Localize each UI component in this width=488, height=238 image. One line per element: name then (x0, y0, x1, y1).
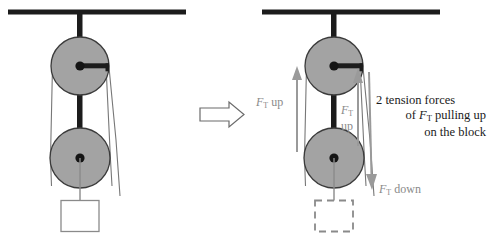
label-ft-up-left: FT up (256, 96, 283, 112)
upper-axle-arm-drop (360, 63, 364, 71)
support-ceiling (8, 10, 186, 15)
tension-note-symbol: F (419, 108, 427, 122)
label-ft-down: FT down (379, 183, 421, 199)
label-ft-up-left-suffix: up (268, 95, 283, 109)
label-ft-down-suffix: down (391, 182, 421, 196)
upper-pulley-hub (329, 61, 338, 70)
hanging-block (315, 201, 353, 232)
force-arrow-ft-up-left (292, 66, 302, 152)
tension-note: 2 tension forces of FT pulling up on the… (374, 93, 486, 140)
hanging-block (61, 201, 99, 232)
label-ft-up-middle-subscript: T (348, 109, 353, 118)
tension-note-line-2-pre: of (405, 108, 419, 122)
rope-right-strand-outer (109, 62, 121, 196)
pulley-tension-diagram: FT up FTup FT down 2 tension forces of F… (0, 0, 488, 238)
tension-note-line-1: 2 tension forces (374, 93, 486, 108)
label-ft-up-middle: FTup (336, 104, 358, 132)
tension-note-line-2-post: pulling up (432, 108, 486, 122)
upper-pulley-hub (75, 61, 84, 70)
label-ft-up-middle-suffix: up (341, 119, 353, 133)
support-ceiling (262, 10, 440, 15)
tension-note-line-2: of FT pulling up (374, 108, 486, 126)
right-arrow-icon (200, 102, 244, 127)
left-figure (8, 10, 186, 232)
upper-axle-arm-drop (106, 63, 110, 71)
tension-note-line-3: on the block (374, 125, 486, 140)
